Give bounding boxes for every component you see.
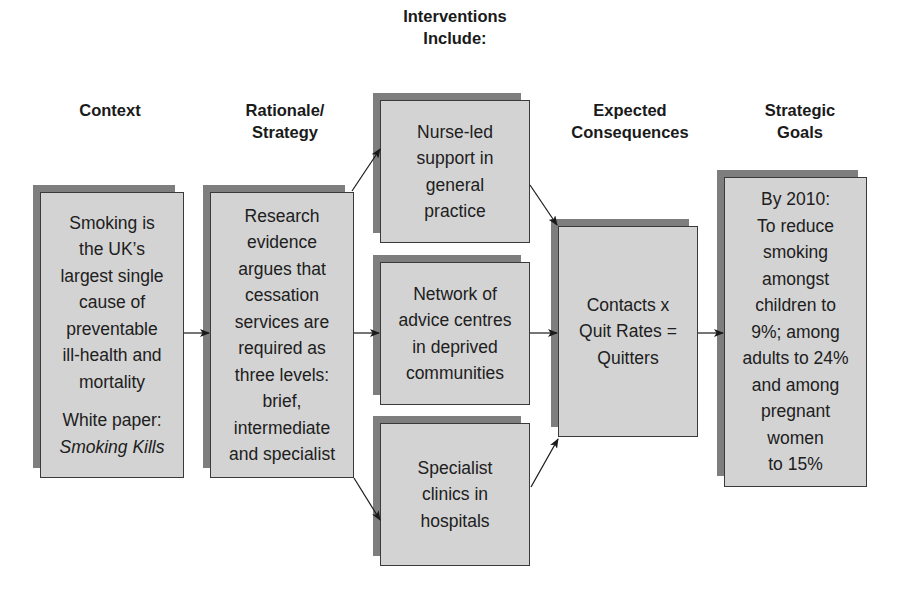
goals-line: women (767, 425, 823, 452)
arrow-specialist-clinics-to-consequences (531, 439, 558, 487)
intervention-specialist-clinics-box: Specialist clinics in hospitals (380, 423, 530, 566)
heading-strategic-goals: Strategic Goals (715, 99, 885, 143)
rationale-line: argues that (238, 256, 326, 283)
rationale-line: required as (238, 335, 326, 362)
consequences-box: Contacts x Quit Rates = Quitters (558, 226, 698, 437)
intervention-line: communities (406, 360, 504, 387)
rationale-line: evidence (247, 229, 317, 256)
goals-line: smoking (763, 239, 828, 266)
goals-line: to 15% (768, 451, 822, 478)
goals-line: pregnant (761, 398, 830, 425)
heading-interventions-include: Interventions Include: (375, 5, 535, 49)
rationale-line: three levels: (235, 362, 329, 389)
goals-line: adults to 24% (742, 345, 848, 372)
intervention-line: support in (417, 145, 494, 172)
rationale-line: services are (235, 309, 329, 336)
goals-line: and among (752, 372, 840, 399)
context-line: ill-health and (62, 342, 161, 369)
intervention-line: advice centres (399, 307, 512, 334)
intervention-line: general (426, 172, 484, 199)
context-box: Smoking is the UK’s largest single cause… (40, 192, 184, 478)
consequences-line: Quitters (597, 345, 658, 372)
context-line: mortality (79, 369, 145, 396)
context-line: the UK’s (79, 236, 145, 263)
context-line: largest single (60, 263, 163, 290)
intervention-line: hospitals (420, 508, 489, 535)
rationale-line: brief, (263, 388, 302, 415)
goals-line: children to (755, 292, 836, 319)
goals-line: To reduce (757, 213, 834, 240)
goals-line: 9%; among (751, 319, 840, 346)
rationale-box: Research evidence argues that cessation … (210, 192, 354, 478)
intervention-line: clinics in (422, 481, 488, 508)
rationale-line: intermediate (234, 415, 330, 442)
context-line: cause of (79, 289, 145, 316)
consequences-line: Quit Rates = (579, 318, 677, 345)
intervention-line: Network of (413, 281, 497, 308)
intervention-line: Specialist (418, 455, 493, 482)
rationale-line: Research (245, 203, 320, 230)
intervention-line: in deprived (412, 334, 498, 361)
white-paper-title: Smoking Kills (59, 434, 164, 461)
heading-context: Context (30, 99, 190, 121)
goals-line: By 2010: (761, 186, 830, 213)
intervention-line: practice (424, 198, 485, 225)
rationale-line: cessation (245, 282, 319, 309)
intervention-advice-centres-box: Network of advice centres in deprived co… (380, 262, 530, 405)
intervention-nurse-led-box: Nurse-led support in general practice (380, 100, 530, 243)
heading-rationale-strategy: Rationale/ Strategy (205, 99, 365, 143)
white-paper-label: White paper: (62, 407, 161, 434)
consequences-line: Contacts x (587, 292, 670, 319)
context-line: preventable (66, 316, 157, 343)
intervention-line: Nurse-led (417, 119, 493, 146)
context-line: Smoking is (69, 210, 155, 237)
rationale-line: and specialist (229, 441, 335, 468)
goals-box: By 2010: To reduce smoking amongst child… (724, 177, 867, 487)
goals-line: amongst (762, 266, 829, 293)
heading-expected-consequences: Expected Consequences (545, 99, 715, 143)
